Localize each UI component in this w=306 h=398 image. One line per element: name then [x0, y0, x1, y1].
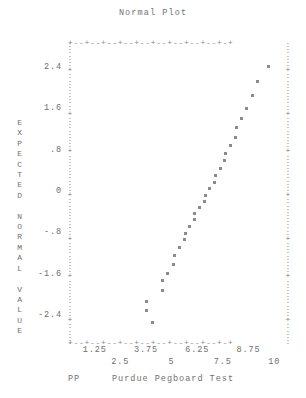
data-point: [208, 187, 211, 190]
data-point: [188, 225, 191, 228]
y-axis-tick-label: 1.6: [28, 104, 62, 113]
data-point: [229, 144, 232, 147]
y-axis-tick-label: -.8: [28, 228, 62, 237]
axis-top-border: +--+--+--+--+--+--+--+--+--+-+: [68, 38, 290, 47]
data-point: [251, 94, 254, 97]
x-axis-tick-label: 1.25: [83, 345, 107, 355]
data-point: [161, 289, 164, 292]
data-point: [235, 126, 238, 129]
data-point: [213, 181, 216, 184]
data-point: [193, 218, 196, 221]
axis-fill-char: :: [66, 342, 74, 344]
axis-right-border: ::::+::::::+:::::+::::::+::::::+:::::+::…: [284, 42, 292, 344]
data-point: [178, 246, 181, 249]
data-point: [145, 309, 148, 312]
data-point: [223, 159, 226, 162]
x-axis-tick-label: 3.75: [134, 345, 158, 355]
y-axis-tick-label: 2.4: [28, 63, 62, 72]
data-point: [193, 212, 196, 215]
data-point: [173, 254, 176, 257]
y-axis-title: E X P E C T E D N O R M A L V A L U E: [14, 118, 26, 337]
data-point: [219, 167, 222, 170]
y-axis-tick-label: .8: [28, 146, 62, 155]
x-axis-tick-label: 6.25: [185, 345, 209, 355]
data-point: [161, 279, 164, 282]
data-point: [151, 321, 154, 324]
data-point: [234, 136, 237, 139]
axis-left-border: ::::+::::::+:::::+::::::+::::::+:::::+::…: [66, 42, 74, 344]
axis-top-characters: +--+--+--+--+--+--+--+--+--+-+: [68, 38, 290, 47]
x-axis-tick-label: 7.5: [214, 357, 232, 367]
data-point: [166, 272, 169, 275]
y-axis-tick-label: 0: [28, 187, 62, 196]
normal-plot-chart: Normal Plot +--+--+--+--+--+--+--+--+--+…: [0, 0, 306, 398]
data-point: [267, 65, 270, 68]
x-axis-tick-label: 5: [169, 357, 175, 367]
data-point: [183, 238, 186, 241]
data-point: [256, 80, 259, 83]
data-point: [214, 174, 217, 177]
data-point: [145, 300, 148, 303]
x-axis-tick-label: 2.5: [111, 357, 129, 367]
data-point: [184, 232, 187, 235]
y-axis-tick-label: -1.6: [28, 270, 62, 279]
data-point: [172, 263, 175, 266]
x-axis-variable-code: PP: [68, 374, 80, 384]
x-axis-title: Purdue Pegboard Test: [112, 374, 234, 384]
data-point: [204, 194, 207, 197]
data-point: [203, 200, 206, 203]
y-axis-tick-label: -2.4: [28, 311, 62, 320]
data-point: [224, 152, 227, 155]
x-axis-tick-label: 10: [268, 357, 280, 367]
x-axis-tick-label: 8.75: [237, 345, 261, 355]
chart-title: Normal Plot: [0, 8, 306, 18]
data-point: [245, 107, 248, 110]
data-point: [240, 117, 243, 120]
data-point: [198, 206, 201, 209]
axis-fill-char: :: [284, 342, 292, 344]
